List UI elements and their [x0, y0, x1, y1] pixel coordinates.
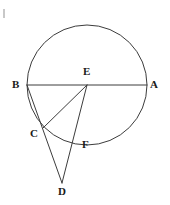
vertex-label-f: F — [82, 139, 89, 150]
segment-EC-radius — [43, 85, 87, 128]
vertex-label-a: A — [150, 79, 158, 90]
vertex-label-d: D — [58, 186, 66, 197]
vertex-label-e: E — [83, 66, 90, 77]
geometry-canvas — [0, 0, 170, 205]
vertex-label-b: B — [12, 79, 19, 90]
segment-ED-secant — [62, 85, 87, 183]
vertex-label-c: C — [30, 128, 38, 139]
geometry-diagram: A B C D E F — [0, 0, 170, 205]
